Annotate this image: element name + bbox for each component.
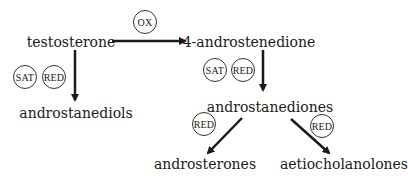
- node-aetiocholanolones: aetiocholanolones: [280, 157, 408, 171]
- node-androstanediols: androstanediols: [19, 106, 132, 120]
- steroid-pathway-diagram: testosterone 4-androstenedione androstan…: [0, 0, 408, 178]
- badge-red-left: RED: [42, 65, 66, 89]
- node-testosterone: testosterone: [27, 35, 116, 49]
- badge-red-lower-left: RED: [192, 112, 216, 136]
- badge-red-right: RED: [231, 58, 255, 82]
- badge-sat-left: SAT: [13, 65, 37, 89]
- badge-ox: OX: [133, 10, 157, 34]
- node-4-androstenedione: 4-androstenedione: [183, 35, 316, 49]
- badge-sat-right: SAT: [203, 58, 227, 82]
- badge-red-lower-right: RED: [310, 114, 334, 138]
- node-androsterones: androsterones: [154, 157, 256, 171]
- node-androstanediones: androstanediones: [207, 100, 333, 114]
- arrows-layer: [0, 0, 408, 178]
